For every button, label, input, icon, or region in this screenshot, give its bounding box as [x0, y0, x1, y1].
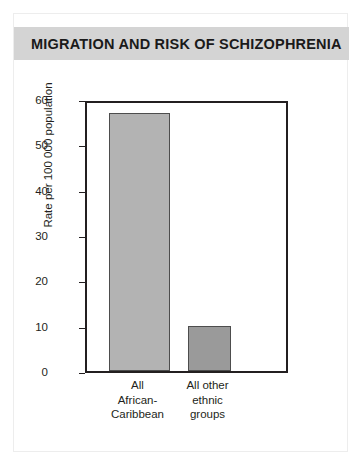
bar-series [87, 103, 286, 371]
y-tick-label: 10 [8, 321, 48, 333]
x-axis-label-line: ethnic [158, 393, 258, 408]
y-tick-label: 40 [8, 185, 48, 197]
bar [109, 113, 170, 371]
y-tick-mark [79, 373, 85, 374]
y-tick-label: 20 [8, 275, 48, 287]
chart-title-band: MIGRATION AND RISK OF SCHIZOPHRENIA [14, 27, 349, 60]
y-tick-label: 60 [8, 94, 48, 106]
y-tick-label: 30 [8, 230, 48, 242]
page-title: MIGRATION AND RISK OF SCHIZOPHRENIA [31, 36, 342, 52]
x-axis-label: All otherethnicgroups [158, 378, 258, 422]
plot-area [85, 101, 288, 373]
y-tick-label: 50 [8, 139, 48, 151]
figure-panel: MIGRATION AND RISK OF SCHIZOPHRENIA Rate… [13, 13, 348, 452]
y-axis-title: Rate per 100 000 population [42, 55, 54, 255]
y-tick-label: 0 [8, 366, 48, 378]
x-axis-label-line: groups [158, 407, 258, 422]
x-axis-label-line: All other [158, 378, 258, 393]
bar [188, 326, 231, 371]
